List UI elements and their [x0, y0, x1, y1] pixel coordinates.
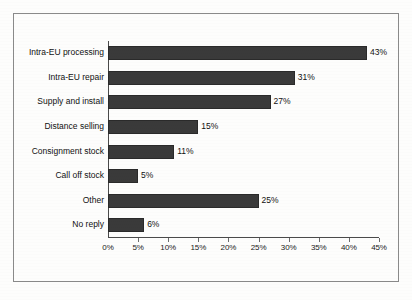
- x-tick-mark: [259, 238, 260, 242]
- bar-value-label: 15%: [201, 119, 218, 133]
- x-tick-mark: [168, 238, 169, 242]
- x-tick-label: 35%: [311, 243, 327, 252]
- plot-area: Intra-EU processing43%Intra-EU repair31%…: [108, 41, 379, 238]
- bar: [108, 71, 295, 85]
- bar-row: Intra-EU repair31%: [108, 66, 379, 91]
- bar-value-label: 31%: [298, 70, 315, 84]
- category-label: No reply: [72, 217, 104, 231]
- category-label: Other: [83, 193, 104, 207]
- x-tick-label: 40%: [341, 243, 357, 252]
- x-tick-label: 15%: [190, 243, 206, 252]
- category-label: Intra-EU repair: [48, 70, 104, 84]
- bar: [108, 145, 174, 159]
- bar: [108, 218, 144, 232]
- bar-row: Consignment stock11%: [108, 140, 379, 165]
- category-label: Intra-EU processing: [29, 45, 104, 59]
- category-label: Consignment stock: [32, 144, 104, 158]
- x-tick-label: 25%: [251, 243, 267, 252]
- bar-value-label: 11%: [177, 144, 193, 158]
- bar: [108, 169, 138, 183]
- bar-row: Intra-EU processing43%: [108, 41, 379, 66]
- bar-row: Other25%: [108, 189, 379, 214]
- x-tick-mark: [379, 238, 380, 242]
- bar-value-label: 25%: [262, 193, 279, 207]
- x-tick-mark: [228, 238, 229, 242]
- bar: [108, 120, 198, 134]
- x-tick-mark: [138, 238, 139, 242]
- bar-row: Supply and install27%: [108, 90, 379, 115]
- bar-value-label: 43%: [370, 45, 387, 59]
- x-tick-label: 30%: [281, 243, 297, 252]
- bar-row: Call off stock5%: [108, 164, 379, 189]
- x-tick-mark: [319, 238, 320, 242]
- bar-value-label: 27%: [274, 94, 291, 108]
- bar: [108, 46, 367, 60]
- x-tick-mark: [349, 238, 350, 242]
- x-tick-label: 0%: [102, 243, 113, 252]
- x-tick-label: 20%: [221, 243, 237, 252]
- chart-figure: Intra-EU processing43%Intra-EU repair31%…: [0, 0, 412, 300]
- bar-value-label: 6%: [147, 217, 159, 231]
- x-tick-label: 5%: [132, 243, 143, 252]
- category-label: Supply and install: [37, 94, 104, 108]
- x-tick-mark: [289, 238, 290, 242]
- x-tick-mark: [198, 238, 199, 242]
- bar-row: Distance selling15%: [108, 115, 379, 140]
- chart-frame: Intra-EU processing43%Intra-EU repair31%…: [13, 13, 399, 282]
- bar: [108, 95, 271, 109]
- bar-value-label: 5%: [141, 168, 153, 182]
- category-label: Distance selling: [44, 119, 104, 133]
- bar-row: No reply6%: [108, 213, 379, 238]
- bar: [108, 194, 259, 208]
- x-tick-label: 45%: [371, 243, 387, 252]
- x-tick-label: 10%: [160, 243, 176, 252]
- category-label: Call off stock: [55, 168, 104, 182]
